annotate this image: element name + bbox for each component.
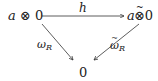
target-var: a [127,8,134,23]
label-h: h [79,2,87,14]
label-omega-tilde-r: ~ωR [110,40,125,53]
source-var: a [8,8,16,23]
tensor-symbol: ⊗ [20,8,31,23]
label-omega-r: ωR [37,39,52,52]
node-bottom: 0 [79,66,87,79]
target-obj: 0 [145,8,153,23]
node-source: a ⊗ 0 [8,9,43,22]
source-obj: 0 [35,8,43,23]
node-target: a~⊗0 [127,9,152,22]
tilde-tensor-symbol: ~⊗ [134,9,144,22]
